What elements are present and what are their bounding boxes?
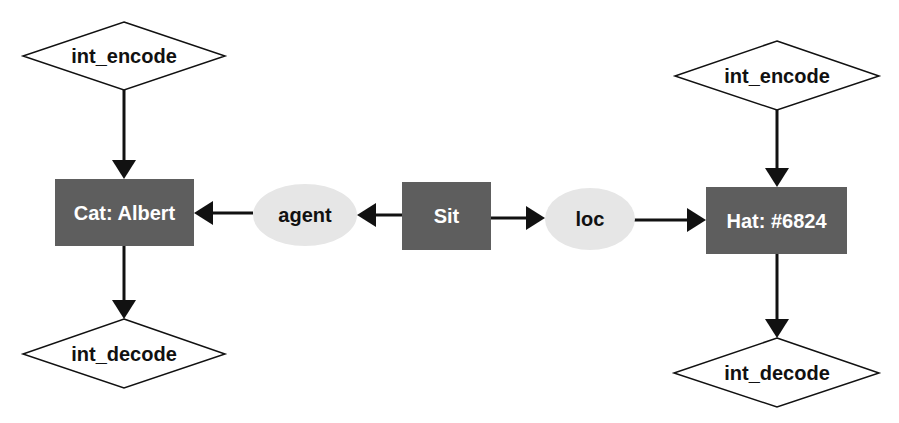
conceptual-graph-diagram: int_encode Cat: Albert int_decode agent … <box>0 0 899 423</box>
node-agent: agent <box>253 184 357 246</box>
arrowhead-icon <box>687 208 706 232</box>
node-label: int_decode <box>71 343 177 365</box>
node-sit: Sit <box>402 182 491 250</box>
node-label: loc <box>576 208 605 230</box>
node-cat-albert: Cat: Albert <box>55 179 194 246</box>
arrowhead-icon <box>765 319 789 338</box>
arrowhead-icon <box>112 160 136 179</box>
edge-sit-to-loc <box>491 206 545 230</box>
edge-hat-to-right-decode <box>765 254 789 338</box>
node-label: int_decode <box>724 362 830 384</box>
node-loc: loc <box>545 188 635 250</box>
arrowhead-icon <box>194 201 213 225</box>
node-label: agent <box>278 204 332 226</box>
node-label: int_encode <box>724 65 830 87</box>
edge-cat-to-left-decode <box>112 246 136 319</box>
node-right-int-encode: int_encode <box>675 41 879 110</box>
node-hat-6824: Hat: #6824 <box>706 187 847 254</box>
node-left-int-decode: int_decode <box>23 319 225 388</box>
edge-loc-to-hat <box>634 208 706 232</box>
node-label: Sit <box>434 205 460 227</box>
arrowhead-icon <box>112 300 136 319</box>
node-label: int_encode <box>71 45 177 67</box>
edge-left-encode-to-cat <box>112 90 136 179</box>
arrowhead-icon <box>765 168 789 187</box>
edge-sit-to-agent <box>357 203 402 227</box>
arrowhead-icon <box>526 206 545 230</box>
arrowhead-icon <box>357 203 376 227</box>
node-right-int-decode: int_decode <box>674 338 879 407</box>
edge-right-encode-to-hat <box>765 110 789 187</box>
node-left-int-encode: int_encode <box>23 22 225 90</box>
edge-agent-to-cat <box>194 201 253 225</box>
node-label: Hat: #6824 <box>726 210 827 232</box>
node-label: Cat: Albert <box>74 202 176 224</box>
